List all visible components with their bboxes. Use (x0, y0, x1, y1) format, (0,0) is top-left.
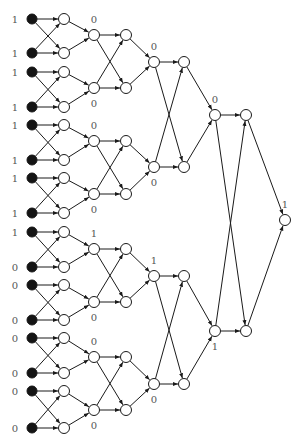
layer2-node (89, 352, 100, 363)
edge-arrow (69, 235, 89, 246)
layer4-node (149, 162, 160, 173)
layer5-node (179, 271, 190, 282)
node-value-label: 1 (12, 48, 18, 59)
input-node (27, 48, 37, 58)
input-node (27, 315, 37, 325)
input-node (27, 368, 37, 378)
layer7-node (241, 110, 252, 121)
edge-arrow (69, 341, 89, 354)
output-node (280, 215, 291, 226)
edge-arrow (187, 281, 212, 326)
node-value-label: 0 (91, 120, 97, 131)
edge-arrow (130, 388, 150, 406)
edge-arrow (130, 66, 150, 84)
edge-arrow (69, 252, 89, 264)
input-node (27, 67, 37, 77)
layer2-node (89, 30, 100, 41)
node-value-label: 0 (12, 386, 18, 397)
layer3-node (121, 352, 132, 363)
edge-arrow (187, 120, 212, 162)
node-value-label: 0 (91, 204, 97, 215)
node-value-label: 1 (12, 208, 18, 219)
layer1-node (59, 368, 70, 379)
layer2-node (89, 297, 100, 308)
layer7-node (241, 326, 252, 337)
sorting-network-diagram: 1111111110000000000010000010011 (0, 0, 303, 447)
layer2-node (89, 83, 100, 94)
node-value-label: 0 (12, 262, 18, 273)
layer1-node (59, 315, 70, 326)
layer1-node (59, 423, 70, 434)
input-node (27, 262, 37, 272)
input-node (27, 14, 37, 24)
node-value-label: 1 (12, 173, 18, 184)
edge-arrow (187, 336, 212, 379)
layer1-node (59, 386, 70, 397)
input-node (27, 102, 37, 112)
layer1-node (59, 67, 70, 78)
edge-arrow (69, 394, 89, 407)
input-node (27, 423, 37, 433)
layer3-node (121, 297, 132, 308)
layer1-node (59, 333, 70, 344)
input-node (27, 120, 37, 130)
node-value-label: 0 (91, 420, 97, 431)
layer4-node (149, 57, 160, 68)
edge-arrow (69, 360, 89, 371)
node-value-label: 0 (12, 333, 18, 344)
node-value-label: 0 (12, 315, 18, 326)
input-node (27, 208, 37, 218)
edge-arrow (130, 145, 150, 163)
layer2-node (89, 405, 100, 416)
edge-arrow (69, 128, 89, 139)
node-value-label: 1 (12, 14, 18, 25)
layer3-node (121, 244, 132, 255)
layer1-node (59, 48, 70, 59)
edge-arrow (69, 197, 89, 210)
edge-arrow (130, 39, 150, 58)
layer2-node (89, 244, 100, 255)
node-value-label: 1 (91, 228, 97, 239)
edge-arrow (69, 181, 89, 192)
layer5-node (179, 57, 190, 68)
layer4-node (149, 379, 160, 390)
layer1-node (59, 14, 70, 25)
node-value-label: 1 (12, 120, 18, 131)
input-node (27, 155, 37, 165)
node-value-label: 0 (91, 312, 97, 323)
node-value-label: 1 (12, 102, 18, 113)
node-value-label: 1 (282, 199, 288, 210)
node-value-label: 0 (12, 423, 18, 434)
labels: 1111111110000000000010000010011 (12, 14, 288, 434)
input-node (27, 173, 37, 183)
node-value-label: 1 (151, 255, 157, 266)
layer1-node (59, 120, 70, 131)
edge-arrow (69, 91, 89, 104)
node-value-label: 0 (212, 94, 218, 105)
edge-arrow (69, 288, 89, 299)
edge-arrow (248, 226, 283, 326)
layer1-node (59, 280, 70, 291)
layer3-node (121, 405, 132, 416)
edge-arrow (69, 22, 89, 33)
node-value-label: 0 (91, 14, 97, 25)
edge-arrow (69, 305, 89, 317)
layer6-node (210, 326, 221, 337)
layer2-node (89, 189, 100, 200)
node-value-label: 1 (12, 155, 18, 166)
layer1-node (59, 173, 70, 184)
node-value-label: 1 (12, 67, 18, 78)
edge-arrow (130, 280, 150, 298)
layer1-node (59, 262, 70, 273)
edge-arrow (130, 171, 150, 190)
layer1-node (59, 155, 70, 166)
layer3-node (121, 189, 132, 200)
node-value-label: 1 (212, 341, 218, 352)
edges (35, 19, 283, 428)
node-value-label: 0 (151, 394, 157, 405)
input-node (27, 386, 37, 396)
node-value-label: 1 (12, 227, 18, 238)
input-node (27, 227, 37, 237)
edge-arrow (69, 413, 89, 425)
layer4-node (149, 271, 160, 282)
